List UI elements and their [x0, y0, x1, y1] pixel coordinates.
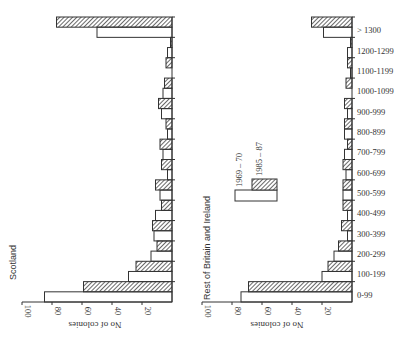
bar-1969-70	[346, 170, 352, 180]
bar-1969-70	[160, 190, 172, 200]
category-label: 300-399	[357, 229, 385, 239]
value-tick-label: 80	[53, 307, 63, 316]
bar-1969-70	[168, 170, 173, 180]
bar-1985-87	[162, 160, 173, 170]
bar-1985-87	[156, 180, 173, 190]
bar-1985-87	[84, 282, 173, 292]
bar-1969-70	[322, 271, 352, 281]
value-tick-label: 100	[23, 305, 33, 318]
bar-1969-70	[45, 292, 173, 302]
category-label: 1100-1199	[357, 66, 393, 76]
value-tick-label: 60	[263, 307, 273, 316]
rest-of-britain-panel: 20406080100 0-99100-199200-299300-399400…	[202, 17, 394, 330]
colonies-chart: 20406080100 Scotland No of colonies 2040…	[0, 0, 406, 351]
category-label: > 1300	[357, 25, 381, 35]
rest-title: Rest of Britain and Ireland	[202, 196, 212, 300]
category-label: 200-299	[357, 249, 385, 259]
category-label: 700-799	[357, 147, 385, 157]
bar-1985-87	[312, 17, 353, 27]
bar-1985-87	[136, 261, 172, 271]
bar-1969-70	[129, 271, 173, 281]
category-label: 900-999	[357, 107, 385, 117]
category-label: 0-99	[357, 290, 373, 300]
bar-1969-70	[162, 109, 173, 119]
bar-1985-87	[348, 139, 353, 149]
category-label: 600-699	[357, 168, 385, 178]
bar-1985-87	[165, 78, 173, 88]
bar-1985-87	[157, 241, 172, 251]
category-label: 800-899	[357, 127, 385, 137]
category-label: 1000-1099	[357, 86, 394, 96]
legend-label-1969-70: 1969 – 70	[234, 153, 244, 187]
bar-1969-70	[154, 231, 172, 241]
bar-1969-70	[348, 48, 353, 58]
value-tick-label: 20	[143, 307, 153, 316]
bar-1969-70	[97, 27, 172, 37]
value-tick-label: 80	[233, 307, 243, 316]
bar-1985-87	[57, 17, 173, 27]
bar-1969-70	[348, 210, 353, 220]
legend-swatch-1985-87	[252, 179, 277, 190]
legend: 1969 – 70 1985 – 87	[234, 142, 277, 201]
bar-1969-70	[168, 129, 173, 139]
category-labels: 0-99100-199200-299300-399400-499500-5996…	[357, 25, 394, 300]
bar-1985-87	[328, 261, 352, 271]
bar-1969-70	[343, 190, 352, 200]
value-tick-label: 40	[293, 307, 303, 316]
bar-1985-87	[166, 119, 172, 129]
bar-1985-87	[345, 98, 353, 108]
bar-1969-70	[163, 88, 172, 98]
bar-1985-87	[342, 221, 353, 231]
scotland-ticks: 20406080100	[22, 302, 153, 317]
bar-1985-87	[343, 160, 352, 170]
category-label: 1200-1299	[357, 46, 394, 56]
legend-label-1985-87: 1985 – 87	[254, 142, 264, 176]
bar-1969-70	[345, 149, 353, 159]
bar-1969-70	[345, 129, 353, 139]
scotland-panel: 20406080100 Scotland No of colonies	[8, 17, 175, 330]
bar-1969-70	[151, 251, 172, 261]
rest-ticks: 20406080100	[202, 302, 333, 317]
bar-1985-87	[249, 282, 353, 292]
bar-1985-87	[160, 139, 172, 149]
bar-1969-70	[334, 251, 352, 261]
bar-1985-87	[153, 221, 173, 231]
bar-1985-87	[339, 241, 353, 251]
scotland-title: Scotland	[8, 245, 18, 280]
legend-swatch-1969-70	[235, 190, 277, 201]
category-label: 400-499	[357, 208, 385, 218]
bar-1985-87	[162, 200, 173, 210]
bar-1985-87	[348, 58, 353, 68]
value-tick-label: 60	[83, 307, 93, 316]
category-label: 500-599	[357, 188, 385, 198]
bar-1985-87	[346, 78, 352, 88]
bar-1985-87	[159, 98, 173, 108]
bar-1969-70	[241, 292, 352, 302]
bar-1969-70	[324, 27, 353, 37]
value-tick-label: 40	[113, 307, 123, 316]
value-tick-label: 100	[203, 305, 213, 318]
bar-1985-87	[343, 200, 352, 210]
scotland-axis-label: No of colonies	[68, 320, 121, 330]
bar-1969-70	[348, 231, 353, 241]
bar-1969-70	[156, 210, 173, 220]
bar-1969-70	[168, 48, 173, 58]
bar-1969-70	[163, 149, 172, 159]
rest-axis-label: No of colonies	[250, 320, 303, 330]
scotland-bars	[45, 17, 176, 302]
bar-1985-87	[166, 58, 172, 68]
bar-1969-70	[348, 109, 353, 119]
bar-1985-87	[345, 119, 353, 129]
category-label: 100-199	[357, 269, 385, 279]
bar-1985-87	[343, 180, 352, 190]
value-tick-label: 20	[323, 307, 333, 316]
